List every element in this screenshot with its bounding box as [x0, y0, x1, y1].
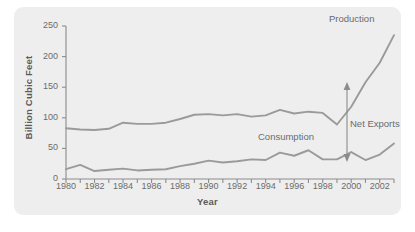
x-axis-title: Year: [0, 196, 415, 207]
y-tick-label: 200: [30, 51, 58, 61]
y-tick-label: 50: [30, 142, 58, 152]
y-tick-label: 250: [30, 20, 58, 30]
production-series-label: Production: [329, 13, 374, 24]
x-tick-label: 2002: [365, 181, 395, 191]
series-line-production: [66, 35, 394, 130]
data-series-group: [66, 35, 394, 171]
y-axis-ticks: [62, 26, 66, 179]
net-exports-annotation-label: Net Exports: [350, 118, 400, 129]
x-tick-label: 2000: [336, 181, 366, 191]
x-tick-label: 1992: [222, 181, 252, 191]
x-tick-label: 1998: [308, 181, 338, 191]
x-tick-label: 1982: [80, 181, 110, 191]
x-tick-label: 1994: [251, 181, 281, 191]
x-tick-label: 1996: [279, 181, 309, 191]
series-line-consumption: [66, 144, 394, 172]
consumption-series-label: Consumption: [258, 131, 314, 142]
x-tick-label: 1988: [165, 181, 195, 191]
y-tick-label: 150: [30, 81, 58, 91]
y-tick-label: 100: [30, 112, 58, 122]
chart-figure: Billion Cubic Feet Year Production Consu…: [0, 0, 415, 232]
x-tick-label: 1990: [194, 181, 224, 191]
x-tick-label: 1984: [108, 181, 138, 191]
x-tick-label: 1986: [137, 181, 167, 191]
x-tick-label: 1980: [51, 181, 81, 191]
net-exports-arrow-head-down: [344, 154, 351, 162]
net-exports-arrow-head-up: [344, 82, 351, 90]
